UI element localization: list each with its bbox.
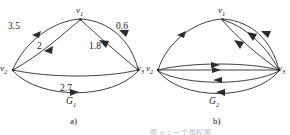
vertex-dot-b-v1 xyxy=(221,18,224,21)
weight-label-a-2: 2 xyxy=(37,42,42,52)
figure-caption-faint: 图 6-2 一个带权图 xyxy=(150,127,280,135)
panel-label-b: b) xyxy=(213,117,221,126)
arrow-b-v1-v3-outer xyxy=(261,31,271,38)
weight-label-a-0-6: 0.6 xyxy=(116,22,128,32)
weight-label-a-1-8: 1.8 xyxy=(89,42,101,52)
edge-v2-v3-chord xyxy=(13,70,138,76)
edge-b-v1-v2 xyxy=(158,19,222,70)
graph-drawing-canvas xyxy=(0,0,290,135)
vertex-dot-a-v2 xyxy=(12,69,15,72)
vertex-label-b-v2: v2 xyxy=(146,64,153,75)
edge-v1-v2-inner xyxy=(13,20,80,70)
vertex-label-a-v1: v1 xyxy=(76,6,83,17)
edge-v1-v2-outer xyxy=(13,19,80,69)
vertex-label-b-v3: v3 xyxy=(278,64,285,75)
vertex-label-a-v2: v2 xyxy=(0,64,7,75)
panel-label-a: a) xyxy=(70,117,77,126)
arrow-b-v2-v3-bottom xyxy=(216,89,225,96)
arrow-b-v2-v3-upper xyxy=(211,62,220,68)
weight-label-a-3-5: 3.5 xyxy=(8,22,20,32)
vertex-dot-a-v1 xyxy=(79,18,82,21)
figure-root: v1 v2 v3 3.5 2 0.6 1.8 2.7 G1 a) v1 v2 v… xyxy=(0,0,290,135)
arrow-v1-v2-inner xyxy=(44,46,53,54)
graph-name-g1: G1 xyxy=(66,97,76,108)
graph-name-g2: G2 xyxy=(209,97,219,108)
arrow-v1-v2-outer xyxy=(32,31,41,38)
arrow-b-v2-v3-middle xyxy=(212,67,221,73)
panel-b-graph xyxy=(157,18,281,96)
edge-b-v1-v3-outer xyxy=(223,19,279,70)
edge-v2-v3-bottom xyxy=(13,71,138,93)
arrow-b-v1-v2 xyxy=(177,31,186,38)
vertex-dot-b-v2 xyxy=(157,69,160,72)
vertex-label-b-v1: v1 xyxy=(218,6,225,17)
weight-label-a-2-7: 2.7 xyxy=(60,84,72,94)
vertex-label-a-v3: v3 xyxy=(137,64,144,75)
